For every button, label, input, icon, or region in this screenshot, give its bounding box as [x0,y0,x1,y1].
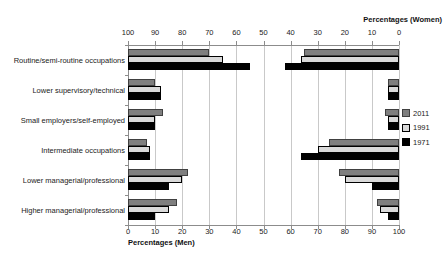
women-axis-tick-label: 50 [251,28,277,37]
men-axis-tick-label: 100 [386,227,412,236]
men-axis-tick-label: 60 [278,227,304,236]
men-bar-2011 [128,199,177,206]
gridline [236,45,237,225]
men-axis-tick-label: 40 [223,227,249,236]
men-axis-tick-label: 80 [332,227,358,236]
men-bar-1971 [128,123,155,130]
women-axis-tick-label: 90 [142,28,168,37]
women-bar-1991 [388,86,399,93]
occupations-by-sex-chart: Percentages (Women) Percentages (Men) 10… [0,0,445,253]
gridline [209,45,210,225]
women-bar-2011 [388,79,399,86]
men-bar-2011 [128,109,163,116]
category-label: Small employers/self-employed [1,116,125,125]
men-bar-1971 [128,183,169,190]
women-bar-1971 [285,63,399,70]
men-bar-1991 [128,146,150,153]
legend-label-1971: 1971 [413,138,430,147]
women-bar-1971 [301,153,399,160]
women-bar-1991 [318,146,399,153]
women-bar-1991 [345,176,399,183]
gridline [399,45,400,225]
men-bar-1971 [128,153,150,160]
women-bar-1991 [388,116,399,123]
men-axis-tick-label: 10 [142,227,168,236]
legend-item-1991: 1991 [402,123,430,133]
category-axis-tick [125,135,128,136]
men-bar-1991 [128,176,182,183]
top-axis-tick [399,41,400,45]
gridline [182,45,183,225]
men-axis-tick-label: 70 [305,227,331,236]
women-axis-tick-label: 30 [305,28,331,37]
men-bar-2011 [128,169,188,176]
women-axis-tick-label: 60 [223,28,249,37]
category-axis-tick [125,165,128,166]
category-label: Lower supervisory/technical [1,86,125,95]
category-axis-tick [125,225,128,226]
bottom-axis-line [128,225,399,226]
men-bar-1971 [128,63,250,70]
legend-swatch-1991 [402,124,410,132]
women-axis-tick-label: 70 [196,28,222,37]
men-bar-2011 [128,49,209,56]
women-bar-2011 [377,199,399,206]
women-bar-2011 [304,49,399,56]
women-axis-tick-label: 40 [278,28,304,37]
women-axis-tick-label: 10 [359,28,385,37]
category-label: Intermediate occupations [1,146,125,155]
women-bar-1971 [388,123,399,130]
men-bar-1991 [128,116,155,123]
men-axis-tick-label: 30 [196,227,222,236]
men-bar-1971 [128,93,161,100]
women-bar-1991 [301,56,399,63]
category-axis-tick [125,45,128,46]
legend-label-2011: 2011 [413,109,429,118]
category-label: Routine/semi-routine occupations [1,56,125,65]
men-bar-1971 [128,213,155,220]
men-bar-2011 [128,139,147,146]
gridline [345,45,346,225]
women-axis-tick-label: 20 [332,28,358,37]
gridline [264,45,265,225]
women-bar-1971 [372,183,399,190]
men-axis-tick-label: 0 [115,227,141,236]
women-bar-2011 [339,169,399,176]
men-bar-1991 [128,206,169,213]
men-axis-tick-label: 50 [251,227,277,236]
legend-item-1971: 1971 [402,137,430,147]
men-bar-1991 [128,86,161,93]
women-bar-2011 [329,139,399,146]
legend-label-1991: 1991 [413,123,430,132]
gridline [318,45,319,225]
men-bar-1991 [128,56,223,63]
gridline [372,45,373,225]
category-axis-tick [125,195,128,196]
men-axis-tick-label: 90 [359,227,385,236]
women-bar-1971 [388,213,399,220]
gridline [128,45,129,225]
women-bar-1971 [388,93,399,100]
category-label: Lower managerial/professional [1,176,125,185]
legend-item-2011: 2011 [402,108,429,118]
men-axis-title: Percentages (Men) [128,238,195,247]
gridline [155,45,156,225]
category-axis-tick [125,105,128,106]
gridline [291,45,292,225]
women-bar-1991 [380,206,399,213]
women-axis-title: Percentages (Women) [363,15,442,24]
women-axis-tick-label: 0 [386,28,412,37]
legend-swatch-2011 [402,109,410,117]
women-axis-tick-label: 80 [169,28,195,37]
women-axis-tick-label: 100 [115,28,141,37]
category-axis-tick [125,75,128,76]
men-axis-tick-label: 20 [169,227,195,236]
top-axis-line [128,45,399,46]
category-label: Higher managerial/professional [1,206,125,215]
women-bar-2011 [385,109,399,116]
legend-swatch-1971 [402,138,410,146]
men-bar-2011 [128,79,155,86]
